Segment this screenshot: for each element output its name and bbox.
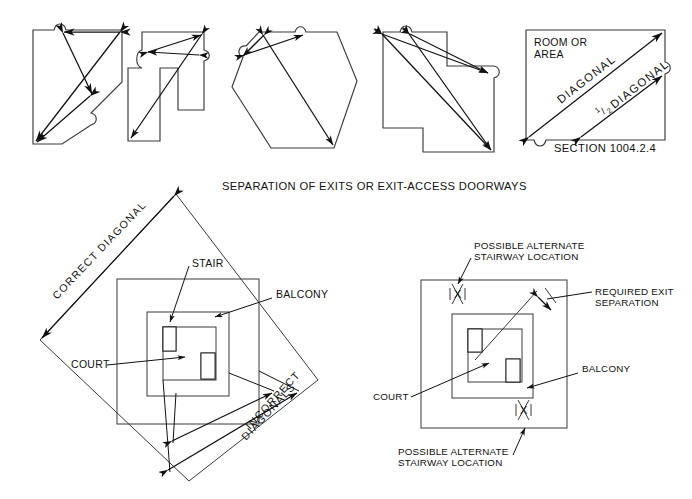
- stair-upper-left: [468, 329, 482, 352]
- alt-stairway-top-line1: POSSIBLE ALTERNATE: [474, 240, 585, 251]
- room-area-label-line2: AREA: [534, 48, 564, 60]
- stair-upper-left: [163, 327, 176, 351]
- diagram-canvas: ROOM OR AREA DIAGONAL 1 / 2 DIAGONAL SEC…: [0, 0, 692, 499]
- balcony-label: BALCONY: [582, 363, 630, 374]
- stair-lower-right: [506, 359, 520, 382]
- stairway-marker-bottom-label: X: [520, 404, 528, 416]
- alt-stairway-top-line2: STAIRWAY LOCATION: [474, 251, 578, 262]
- section-reference: SECTION 1004.2.4: [554, 142, 656, 154]
- court-label: COURT: [71, 358, 110, 370]
- stair-label: STAIR: [192, 257, 224, 269]
- balcony-label: BALCONY: [276, 288, 328, 300]
- alt-stairway-bottom-line2: STAIRWAY LOCATION: [398, 457, 502, 468]
- top-row-caption: SEPARATION OF EXITS OR EXIT-ACCESS DOORW…: [222, 180, 527, 192]
- required-exit-separation-line2: SEPARATION: [595, 297, 659, 308]
- court-label: COURT: [373, 391, 409, 402]
- alt-stairway-bottom-line1: POSSIBLE ALTERNATE: [398, 446, 509, 457]
- stairway-marker-top-label: X: [454, 288, 462, 300]
- required-exit-separation-line1: REQUIRED EXIT: [595, 286, 674, 297]
- room-area-label-line1: ROOM OR: [534, 36, 588, 48]
- stair-lower-right: [201, 353, 215, 379]
